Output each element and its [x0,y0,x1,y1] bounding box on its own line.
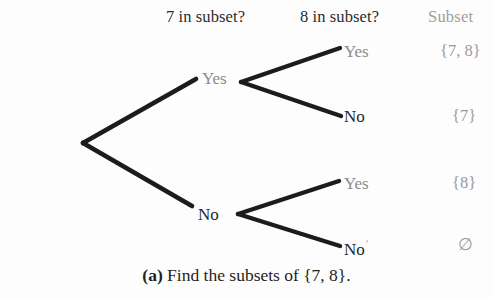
result-set-no-no: ∅ [458,237,473,254]
tree-leaf-yes-yes: Yes [344,43,369,60]
column-header-question-1: 7 in subset? [166,9,245,26]
result-set-yes-yes: {7, 8} [440,43,481,60]
result-set-yes-no: {7} [452,108,476,125]
column-header-question-2: 8 in subset? [300,9,379,26]
column-header-subset: Subset [428,9,473,26]
tree-leaf-yes-no: No [344,108,365,125]
figure-caption-body: Find the subsets of {7, 8}. [167,265,351,285]
branch-yes-to-yes [241,48,340,82]
result-set-no-yes: {8} [452,175,476,192]
tree-leaf-no-no-text: No [344,240,365,259]
scan-artifact-tick: ’ [365,236,369,251]
figure-canvas: 7 in subset? 8 in subset? Subset Yes No … [0,0,493,299]
branch-root-to-no [83,143,192,206]
tree-leaf-no-no: No’ [344,237,369,258]
branch-no-to-yes [238,181,339,214]
tree-node-yes-level1: Yes [202,70,227,87]
tree-leaf-no-yes: Yes [344,175,369,192]
figure-caption-tag: (a) [142,265,162,285]
branch-root-to-yes [83,79,196,143]
branch-yes-to-no [241,82,341,116]
branch-no-to-no [238,214,340,246]
tree-branches [0,0,493,299]
figure-caption: (a) Find the subsets of {7, 8}. [0,265,493,286]
tree-node-no-level1: No [198,206,219,223]
